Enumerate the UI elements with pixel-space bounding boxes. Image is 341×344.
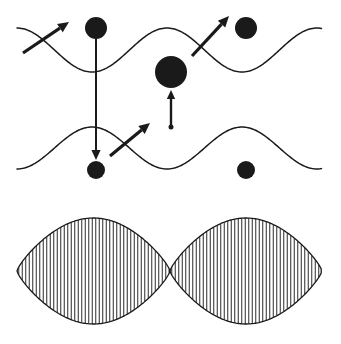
lower-wave-trough-dot-left (87, 161, 105, 179)
figure-root: Superposition of two waves Resulting sta… (0, 0, 341, 344)
upper-wave-crest-dot-right (235, 17, 257, 39)
lower-wave-trough-dot-right (237, 161, 255, 179)
upper-wave-trough-dot-center (155, 56, 187, 88)
figure-background (0, 0, 341, 344)
physics-wave-figure (0, 0, 341, 344)
